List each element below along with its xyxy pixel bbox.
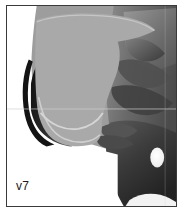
scan-graphic xyxy=(7,6,176,206)
figure-frame: v7 xyxy=(6,5,177,207)
scan-image: v7 xyxy=(7,6,176,206)
bright-oval-void xyxy=(150,148,164,168)
panel-label-v7: v7 xyxy=(16,180,29,192)
figure-panel: v7 xyxy=(0,0,181,212)
